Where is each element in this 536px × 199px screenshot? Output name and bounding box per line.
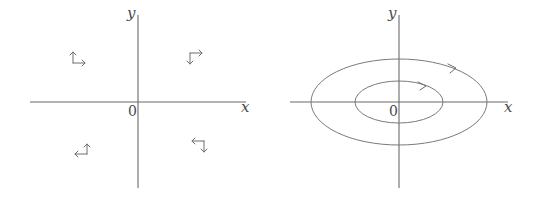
phase-plane-right: y x 0 bbox=[268, 0, 536, 199]
phase-plane-left: y x 0 bbox=[0, 0, 268, 199]
right-plot-canvas bbox=[268, 0, 536, 199]
down-right-arrows-icon bbox=[187, 50, 202, 64]
left-down-arrows-icon bbox=[192, 138, 207, 152]
left-plot-canvas bbox=[0, 0, 268, 199]
x-axis-label: x bbox=[504, 100, 512, 115]
y-axis-label: y bbox=[388, 6, 396, 21]
x-axis-label: x bbox=[241, 100, 249, 115]
outer-orbit-arrow-icon bbox=[448, 64, 456, 73]
y-axis-label: y bbox=[127, 6, 135, 21]
up-left-arrows-icon bbox=[75, 144, 90, 157]
up-right-arrows-icon bbox=[70, 52, 85, 66]
origin-label: 0 bbox=[128, 104, 137, 118]
origin-label: 0 bbox=[389, 104, 398, 118]
